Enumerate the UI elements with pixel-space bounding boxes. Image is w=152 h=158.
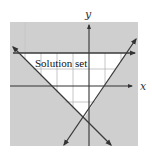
solution-set-label: Solution set <box>35 57 87 69</box>
x-axis-label: x <box>140 80 147 93</box>
inequality-graph: y x Solution set <box>0 0 152 158</box>
y-axis-label: y <box>84 8 92 21</box>
